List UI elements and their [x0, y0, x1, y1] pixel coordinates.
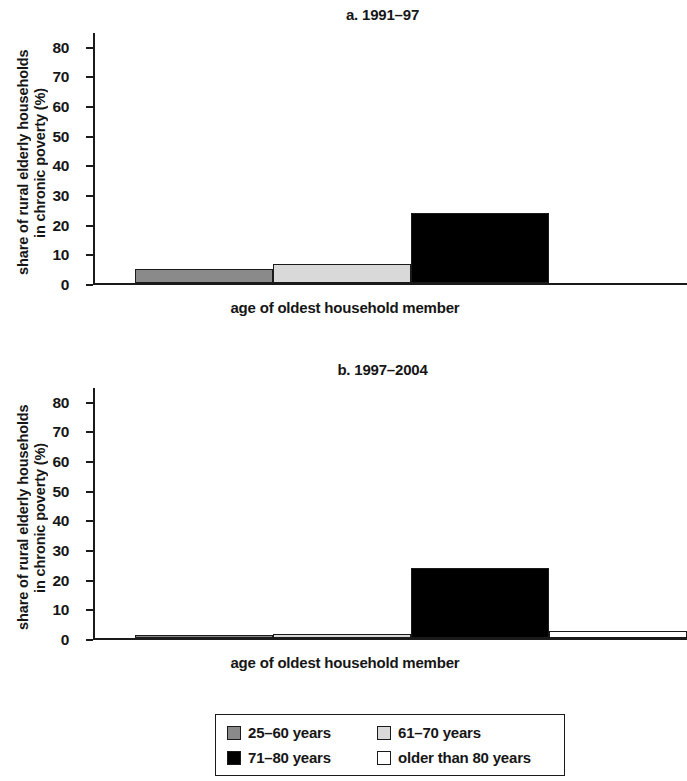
- y-tick-label: 70: [29, 68, 69, 86]
- bar-61–70-years: [273, 264, 411, 283]
- y-tick-mark: [86, 254, 93, 256]
- legend-label: 61–70 years: [398, 724, 481, 741]
- y-tick-label: 50: [29, 483, 69, 501]
- y-tick-mark: [86, 225, 93, 227]
- legend-swatch-icon: [227, 751, 241, 765]
- y-tick-label: 20: [29, 572, 69, 590]
- figure: a. 1991–97 share of rural elderly househ…: [0, 0, 687, 781]
- y-tick-label: 80: [29, 394, 69, 412]
- legend-item-older-than-80-years: older than 80 years: [377, 749, 557, 766]
- legend-row: 25–60 years 61–70 years: [227, 720, 564, 745]
- bar-71–80-years: [411, 568, 549, 638]
- panel-b-plot-area: 01020304050607080: [93, 388, 687, 640]
- x-axis-line: [93, 638, 687, 640]
- y-tick-mark: [86, 431, 93, 433]
- y-tick-label: 0: [29, 631, 69, 649]
- y-tick-label: 70: [29, 423, 69, 441]
- legend-swatch-icon: [377, 751, 391, 765]
- panel-a-bars: [135, 33, 687, 283]
- y-tick-mark: [86, 47, 93, 49]
- y-tick-mark: [86, 136, 93, 138]
- chart-legend: 25–60 years 61–70 years 71–80 years olde…: [215, 714, 565, 776]
- panel-b-title: b. 1997–2004: [0, 361, 687, 378]
- y-tick-label: 40: [29, 157, 69, 175]
- y-tick-label: 10: [29, 601, 69, 619]
- y-tick-label: 60: [29, 453, 69, 471]
- y-tick-mark: [86, 165, 93, 167]
- y-tick-label: 20: [29, 217, 69, 235]
- y-tick-mark: [86, 284, 93, 286]
- y-tick-mark: [86, 461, 93, 463]
- legend-label: 71–80 years: [248, 749, 331, 766]
- y-tick-label: 40: [29, 512, 69, 530]
- legend-label: older than 80 years: [398, 749, 531, 766]
- y-tick-mark: [86, 609, 93, 611]
- y-tick-label: 80: [29, 39, 69, 57]
- y-tick-mark: [86, 491, 93, 493]
- y-axis-line: [93, 388, 95, 640]
- bar-25–60-years: [135, 635, 273, 638]
- bar-older-than-80-years: [549, 631, 687, 638]
- panel-a-plot-area: 01020304050607080: [93, 33, 687, 285]
- y-tick-label: 0: [29, 276, 69, 294]
- legend-swatch-icon: [377, 726, 391, 740]
- y-tick-mark: [86, 520, 93, 522]
- y-tick-mark: [86, 195, 93, 197]
- y-tick-label: 60: [29, 98, 69, 116]
- y-axis-line: [93, 33, 95, 285]
- y-tick-mark: [86, 402, 93, 404]
- legend-item-61-70-years: 61–70 years: [377, 724, 557, 741]
- y-tick-label: 10: [29, 246, 69, 264]
- bar-61–70-years: [273, 634, 411, 638]
- legend-item-25-60-years: 25–60 years: [227, 724, 377, 741]
- chart-panel-a: a. 1991–97 share of rural elderly househ…: [0, 0, 687, 345]
- y-tick-label: 30: [29, 187, 69, 205]
- panel-a-x-axis-label: age of oldest household member: [93, 299, 687, 316]
- y-tick-mark: [86, 106, 93, 108]
- legend-label: 25–60 years: [248, 724, 331, 741]
- y-tick-mark: [86, 550, 93, 552]
- legend-row: 71–80 years older than 80 years: [227, 745, 564, 770]
- y-tick-label: 30: [29, 542, 69, 560]
- y-tick-mark: [86, 580, 93, 582]
- legend-swatch-icon: [227, 726, 241, 740]
- x-axis-line: [93, 283, 687, 285]
- y-tick-mark: [86, 76, 93, 78]
- bar-25–60-years: [135, 269, 273, 283]
- chart-panel-b: b. 1997–2004 share of rural elderly hous…: [0, 355, 687, 700]
- y-tick-mark: [86, 639, 93, 641]
- panel-b-x-axis-label: age of oldest household member: [93, 654, 687, 671]
- y-tick-label: 50: [29, 128, 69, 146]
- legend-item-71-80-years: 71–80 years: [227, 749, 377, 766]
- panel-b-bars: [135, 388, 687, 638]
- panel-a-title: a. 1991–97: [0, 6, 687, 23]
- bar-71–80-years: [411, 213, 549, 283]
